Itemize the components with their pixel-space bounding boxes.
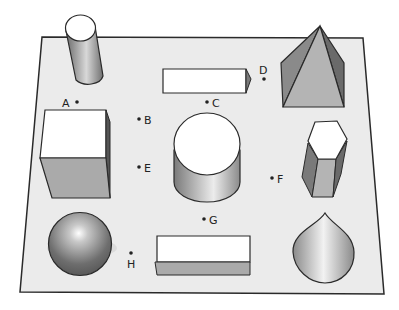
svg-text:C: C — [212, 97, 220, 110]
svg-text:F: F — [277, 173, 283, 186]
rect-prism-bottom — [155, 236, 250, 275]
cube — [40, 110, 110, 198]
svg-text:A: A — [62, 97, 70, 110]
svg-text:E: E — [144, 162, 151, 175]
svg-text:D: D — [259, 64, 267, 77]
svg-text:G: G — [209, 214, 218, 227]
geometry-figure: A B C D E F G H — [0, 0, 399, 310]
large-cylinder — [174, 113, 240, 202]
svg-text:B: B — [144, 114, 152, 127]
svg-text:H: H — [127, 258, 135, 271]
rect-prism-top — [163, 69, 251, 93]
